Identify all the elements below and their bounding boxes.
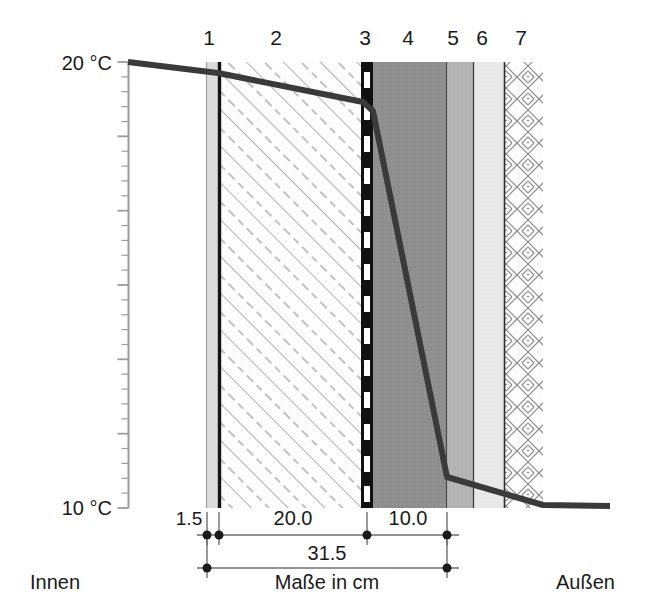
wall-layer-7 [504, 62, 543, 508]
dimension-dot [203, 564, 212, 573]
wall-layer-5 [446, 62, 473, 508]
figure-captions: Maße in cm Innen Außen [30, 571, 615, 593]
axis-label-bottom: 10 °C [62, 497, 112, 519]
dimension-dot [215, 531, 224, 540]
layer-number-1: 1 [203, 26, 215, 49]
wall-layer-6 [473, 62, 504, 508]
dimension-row-1: 1.5 20.0 10.0 [176, 507, 459, 540]
wall-layer-1 [206, 62, 218, 508]
dimension-lines: 1.5 20.0 10.0 31.5 [176, 507, 459, 578]
dimension-label-20-0: 20.0 [274, 507, 313, 529]
dimension-dot [203, 531, 212, 540]
layer-number-labels: 1 2 3 4 5 6 7 [203, 26, 527, 49]
dimension-label-31-5: 31.5 [308, 542, 347, 564]
axis-label-top: 20 °C [62, 52, 112, 74]
units-caption: Maße in cm [275, 571, 379, 593]
wall-section-temperature-diagram: 1 2 3 4 5 6 7 20 °C 10 °C 1.5 20.0 10.0 [0, 0, 651, 611]
temperature-axis [118, 62, 129, 508]
layer-number-4: 4 [402, 26, 414, 49]
layer-number-2: 2 [270, 26, 282, 49]
layer-number-3: 3 [359, 26, 371, 49]
inner-side-label: Innen [30, 571, 80, 593]
dimension-label-1-5: 1.5 [176, 508, 202, 529]
temperature-scale-labels: 20 °C 10 °C [62, 52, 112, 519]
layer-number-5: 5 [447, 26, 459, 49]
dimension-dot [363, 531, 372, 540]
dimension-dot [443, 564, 452, 573]
layer-number-6: 6 [476, 26, 488, 49]
layer-number-7: 7 [515, 26, 527, 49]
outer-side-label: Außen [556, 571, 615, 593]
dimension-label-10-0: 10.0 [389, 507, 428, 529]
wall-layer-3 [361, 62, 373, 508]
wall-layer-2 [218, 62, 361, 508]
dimension-dot [443, 531, 452, 540]
